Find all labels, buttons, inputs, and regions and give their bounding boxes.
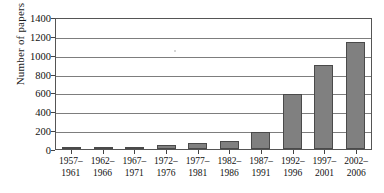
y-axis-tick-mark: [51, 150, 55, 151]
x-label-line-2: 1976: [150, 167, 182, 179]
bar: [62, 147, 81, 149]
x-axis-tick-mark: [324, 150, 325, 154]
x-label-line-1: 1967–: [118, 155, 150, 167]
x-label-line-2: 1996: [277, 167, 309, 179]
x-label-line-1: 1987–: [245, 155, 277, 167]
bar: [220, 141, 239, 149]
y-axis-tick-mark: [51, 131, 55, 132]
x-axis-tick-mark: [229, 150, 230, 154]
y-axis-tick-mark: [51, 75, 55, 76]
x-axis-tick-mark: [71, 150, 72, 154]
x-label-line-2: 1971: [118, 167, 150, 179]
x-axis-tick-mark: [166, 150, 167, 154]
x-label-line-1: 1992–: [277, 155, 309, 167]
y-axis-tick-mark: [51, 112, 55, 113]
chart-figure: Number of papers 1957–19611962–19661967–…: [0, 0, 384, 193]
x-axis-tick-label: 1957–1961: [55, 155, 87, 179]
bar-slot: [308, 19, 340, 149]
x-axis-tick-label: 1977–1981: [182, 155, 214, 179]
x-label-line-1: 2002–: [340, 155, 372, 167]
bar: [188, 143, 207, 149]
y-axis-tick-mark: [51, 93, 55, 94]
y-axis-tick-mark: [51, 18, 55, 19]
x-axis-tick-mark: [261, 150, 262, 154]
bar: [94, 147, 113, 149]
y-axis-tick-label: 1200: [5, 31, 51, 42]
bar-slot: [245, 19, 277, 149]
bar-slot: [88, 19, 120, 149]
bar-slot: [214, 19, 246, 149]
x-axis-tick-label: 2002–2006: [340, 155, 372, 179]
x-label-line-2: 1986: [214, 167, 246, 179]
bar: [283, 94, 302, 149]
x-label-line-1: 1962–: [87, 155, 119, 167]
x-label-line-1: 1957–: [55, 155, 87, 167]
y-axis-tick-label: 800: [5, 69, 51, 80]
y-axis-tick-label: 1000: [5, 50, 51, 61]
bar-slot: [119, 19, 151, 149]
bar-slot: [56, 19, 88, 149]
x-label-line-2: 2001: [309, 167, 341, 179]
x-label-line-1: 1997–: [309, 155, 341, 167]
bar: [157, 145, 176, 149]
x-axis-tick-label: 1972–1976: [150, 155, 182, 179]
x-axis-tick-mark: [293, 150, 294, 154]
x-label-line-2: 1991: [245, 167, 277, 179]
y-axis-tick-mark: [51, 37, 55, 38]
x-label-line-2: 1981: [182, 167, 214, 179]
x-axis-tick-label: 1992–1996: [277, 155, 309, 179]
bar-slot: [277, 19, 309, 149]
bar: [314, 65, 333, 149]
bar-slot: [182, 19, 214, 149]
x-axis-tick-mark: [198, 150, 199, 154]
x-label-line-2: 2006: [340, 167, 372, 179]
x-axis-tick-label: 1967–1971: [118, 155, 150, 179]
x-axis-tick-mark: [134, 150, 135, 154]
x-axis-tick-label: 1962–1966: [87, 155, 119, 179]
y-axis-tick-label: 400: [5, 107, 51, 118]
scan-speck: [174, 50, 176, 52]
y-axis-tick-label: 1400: [5, 13, 51, 24]
x-axis-tick-mark: [356, 150, 357, 154]
y-axis-tick-mark: [51, 56, 55, 57]
bar: [125, 147, 144, 149]
y-axis-tick-label: 600: [5, 88, 51, 99]
x-axis-tick-label: 1982–1986: [214, 155, 246, 179]
x-label-line-2: 1966: [87, 167, 119, 179]
y-axis-tick-label: 200: [5, 126, 51, 137]
x-label-line-1: 1972–: [150, 155, 182, 167]
x-label-line-1: 1977–: [182, 155, 214, 167]
x-axis-tick-label: 1987–1991: [245, 155, 277, 179]
bar: [346, 42, 365, 149]
x-axis-tick-labels: 1957–19611962–19661967–19711972–19761977…: [55, 155, 372, 179]
plot-area: [55, 18, 372, 150]
bar: [251, 132, 270, 149]
bar-slot: [340, 19, 372, 149]
x-axis-tick-label: 1997–2001: [309, 155, 341, 179]
bar-series: [56, 19, 371, 149]
x-label-line-1: 1982–: [214, 155, 246, 167]
x-label-line-2: 1961: [55, 167, 87, 179]
x-axis-tick-mark: [103, 150, 104, 154]
bar-slot: [151, 19, 183, 149]
y-axis-tick-label: 0: [5, 145, 51, 156]
